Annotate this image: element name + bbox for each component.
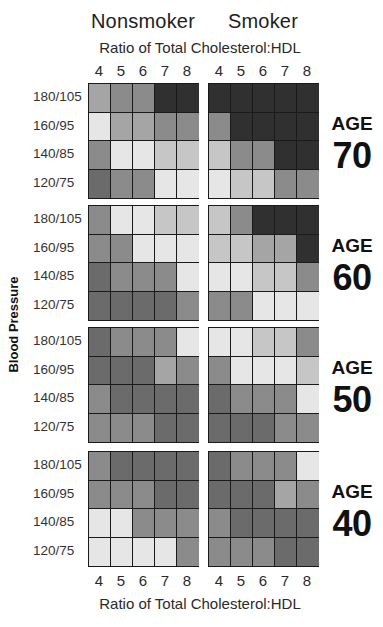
heatmap-cell [89, 357, 111, 386]
heatmap-cell [209, 292, 231, 321]
heatmap-cell [89, 385, 111, 414]
heatmap-cell [253, 452, 275, 481]
heatmap-cell [253, 170, 275, 199]
age-value: 50 [322, 379, 382, 421]
heatmap-cell [297, 263, 319, 292]
heatmap-cell [89, 263, 111, 292]
heatmap-cell [231, 481, 253, 510]
heatmap-cell [275, 481, 297, 510]
heatmap-cell [155, 263, 177, 292]
heatmap-cell [209, 113, 231, 142]
heatmap-cell [155, 481, 177, 510]
x-tick-label: 6 [252, 62, 274, 79]
y-axis-title: Blood Pressure [6, 265, 21, 385]
heatmap-cell [133, 481, 155, 510]
heatmap-cell [133, 452, 155, 481]
heatmap-cell [133, 113, 155, 142]
heatmap-cell [253, 235, 275, 264]
heatmap-cell [231, 292, 253, 321]
heatmap-cell [111, 235, 133, 264]
heatmap-cell [133, 206, 155, 235]
x-tick-label: 5 [110, 62, 132, 79]
heatmap-cell [111, 481, 133, 510]
x-tick-label: 8 [296, 62, 318, 79]
x-tick-label: 5 [110, 572, 132, 589]
heatmap-cell [89, 170, 111, 199]
heatmap-cell [111, 206, 133, 235]
heatmap-cell [253, 481, 275, 510]
heatmap-cell [231, 84, 253, 113]
heatmap-cell [297, 113, 319, 142]
heatmap-cell [275, 414, 297, 443]
heatmap-cell [155, 452, 177, 481]
heatmap-cell [275, 509, 297, 538]
heatmap-cell [231, 452, 253, 481]
heatmap-cell [209, 263, 231, 292]
heatmap-cell [297, 292, 319, 321]
heatmap-cell [231, 357, 253, 386]
heatmap-cell [231, 263, 253, 292]
age-value: 70 [322, 135, 382, 177]
heatmap-cell [133, 538, 155, 567]
heatmap-cell [89, 84, 111, 113]
heatmap-cell [111, 328, 133, 357]
smoker-header: Smoker [208, 10, 318, 33]
heatmap-cell [177, 538, 199, 567]
x-tick-label: 7 [154, 62, 176, 79]
age-value: 40 [322, 503, 382, 545]
x-tick-label: 6 [252, 572, 274, 589]
x-tick-label: 8 [176, 62, 198, 79]
heatmap-grid-nonsmoker-age-70 [88, 83, 199, 199]
heatmap-cell [111, 170, 133, 199]
heatmap-cell [155, 235, 177, 264]
heatmap-cell [297, 141, 319, 170]
heatmap-cell [177, 357, 199, 386]
heatmap-cell [133, 170, 155, 199]
heatmap-cell [253, 385, 275, 414]
heatmap-cell [231, 385, 253, 414]
heatmap-cell [133, 84, 155, 113]
heatmap-cell [275, 292, 297, 321]
heatmap-cell [155, 328, 177, 357]
heatmap-cell [133, 414, 155, 443]
heatmap-grid-smoker-age-60 [208, 205, 319, 321]
heatmap-cell [89, 206, 111, 235]
heatmap-cell [133, 385, 155, 414]
heatmap-cell [209, 328, 231, 357]
heatmap-cell [111, 538, 133, 567]
age-value: 60 [322, 257, 382, 299]
heatmap-cell [275, 84, 297, 113]
heatmap-cell [297, 538, 319, 567]
heatmap-cell [253, 538, 275, 567]
heatmap-cell [297, 385, 319, 414]
heatmap-cell [297, 235, 319, 264]
x-tick-label: 7 [274, 62, 296, 79]
heatmap-cell [177, 206, 199, 235]
heatmap-cell [253, 263, 275, 292]
heatmap-cell [253, 84, 275, 113]
heatmap-cell [253, 141, 275, 170]
heatmap-cell [177, 292, 199, 321]
heatmap-cell [297, 509, 319, 538]
heatmap-cell [111, 292, 133, 321]
heatmap-cell [89, 113, 111, 142]
heatmap-cell [177, 385, 199, 414]
x-tick-label: 7 [274, 572, 296, 589]
heatmap-cell [177, 328, 199, 357]
heatmap-cell [133, 357, 155, 386]
heatmap-grid-nonsmoker-age-40 [88, 451, 199, 567]
heatmap-cell [155, 84, 177, 113]
heatmap-cell [209, 452, 231, 481]
heatmap-cell [89, 481, 111, 510]
heatmap-cell [177, 452, 199, 481]
x-axis-title-bottom: Ratio of Total Cholesterol:HDL [80, 595, 320, 612]
heatmap-cell [253, 509, 275, 538]
heatmap-cell [155, 357, 177, 386]
heatmap-grid-smoker-age-50 [208, 327, 319, 443]
x-tick-label: 4 [88, 62, 110, 79]
nonsmoker-header: Nonsmoker [88, 10, 198, 33]
heatmap-cell [209, 235, 231, 264]
x-tick-label: 4 [88, 572, 110, 589]
heatmap-cell [231, 113, 253, 142]
heatmap-cell [275, 206, 297, 235]
